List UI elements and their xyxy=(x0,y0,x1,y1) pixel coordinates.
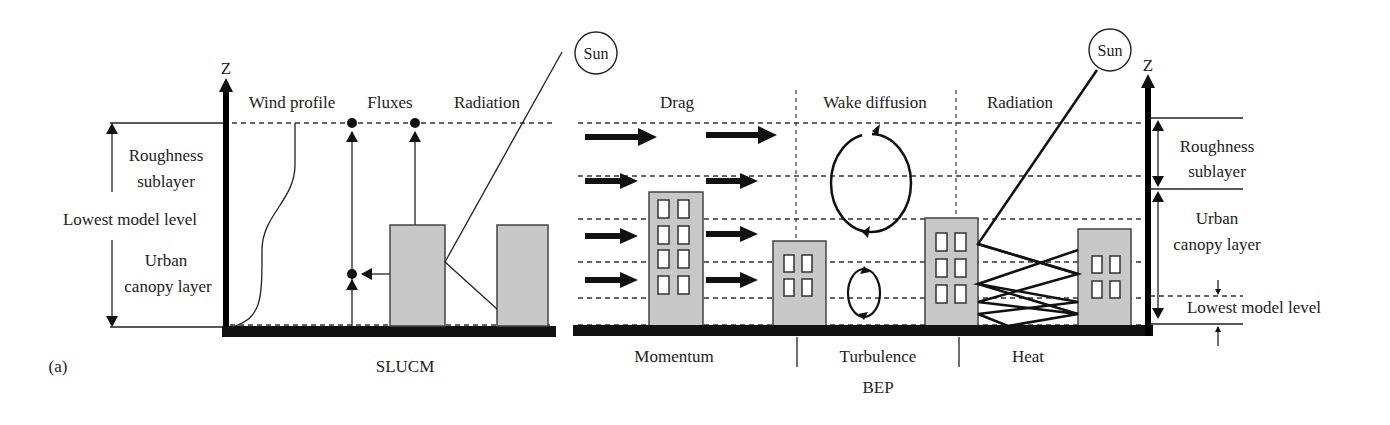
ground-bar xyxy=(573,325,1153,336)
lowest-model-level-label: Lowest model level xyxy=(63,210,197,229)
sun-icon: Sun xyxy=(1089,29,1131,71)
label-heat: Heat xyxy=(1012,347,1044,366)
building xyxy=(649,192,703,326)
roughness-label: Roughness xyxy=(1180,137,1255,156)
header-drag: Drag xyxy=(660,93,694,112)
building xyxy=(497,225,548,326)
canopy-arrow-icon xyxy=(1152,191,1164,319)
building xyxy=(390,225,445,326)
bep-panel: Drag Wake diffusion Radiation xyxy=(573,29,1321,397)
wind-profile-curve xyxy=(232,123,295,327)
header-radiation-bep: Radiation xyxy=(987,93,1054,112)
sun-label: Sun xyxy=(584,45,609,62)
small-eddy-icon xyxy=(848,266,880,320)
roughness-label: Roughness xyxy=(129,146,204,165)
slucm-panel: Roughness sublayer Lowest model level Ur… xyxy=(49,32,617,376)
flux-arrow-icon xyxy=(346,118,390,326)
lowest-model-level-label: Lowest model level xyxy=(1187,298,1321,317)
z-axis-arrow-icon xyxy=(1141,74,1155,88)
roughness-arrow-icon xyxy=(1152,120,1164,187)
label-momentum: Momentum xyxy=(634,347,713,366)
sun-icon: Sun xyxy=(575,32,617,74)
slucm-title: SLUCM xyxy=(376,357,435,376)
panel-label: (a) xyxy=(49,357,68,376)
z-axis-arrow-icon xyxy=(219,78,233,92)
sun-label: Sun xyxy=(1098,42,1123,59)
urban-label: Urban xyxy=(145,251,188,270)
header-wind-profile: Wind profile xyxy=(249,93,336,112)
bep-title: BEP xyxy=(862,378,893,397)
sublayer-label: sublayer xyxy=(1188,162,1246,181)
roughness-arrow-icon xyxy=(106,123,118,192)
reflected-ray-line xyxy=(445,262,497,309)
canopy-layer-label: canopy layer xyxy=(1173,235,1261,254)
canopy-layer-label: canopy layer xyxy=(124,277,212,296)
header-radiation: Radiation xyxy=(454,93,521,112)
label-turbulence: Turbulence xyxy=(840,347,917,366)
building xyxy=(1078,229,1131,326)
urban-canopy-model-diagram: Roughness sublayer Lowest model level Ur… xyxy=(0,0,1390,425)
building xyxy=(773,241,826,326)
roof-flux-arrow-icon xyxy=(409,118,421,225)
urban-label: Urban xyxy=(1196,209,1239,228)
z-axis-label: Z xyxy=(221,59,231,78)
header-fluxes: Fluxes xyxy=(367,93,412,112)
sublayer-label: sublayer xyxy=(137,172,195,191)
building xyxy=(925,218,978,326)
canopy-arrow-icon xyxy=(106,240,118,327)
ground-bar xyxy=(222,326,556,337)
large-eddy-icon xyxy=(831,124,911,238)
header-wake-diffusion: Wake diffusion xyxy=(823,93,927,112)
z-axis-label: Z xyxy=(1143,56,1153,75)
